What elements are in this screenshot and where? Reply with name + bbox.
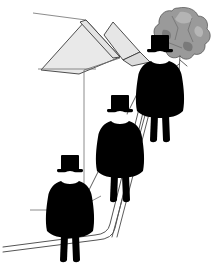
- figure-far-leg-right: [162, 115, 170, 142]
- illusion-illustration: Ponzo size constancy illusion Three iden…: [0, 0, 219, 264]
- figure-middle-face: [112, 111, 128, 125]
- figure-far-leg-left: [150, 115, 158, 142]
- figure-middle-hat-crown: [111, 95, 129, 110]
- figure-middle-coat: [96, 121, 144, 178]
- figure-far-coat: [136, 61, 184, 118]
- figure-near-leg-left: [60, 235, 68, 262]
- figure-middle-leg-right: [122, 175, 130, 202]
- figure-far-face: [152, 51, 168, 65]
- figure-middle-leg-left: [110, 175, 118, 202]
- ponzo-illusion-scene: Ponzo size constancy illusion Three iden…: [0, 0, 219, 264]
- figure-far-hat-crown: [151, 35, 169, 50]
- figure-near-face: [62, 171, 78, 185]
- figure-near-coat: [46, 181, 94, 238]
- figure-near-hat-crown: [61, 155, 79, 170]
- figure-near-leg-right: [72, 235, 80, 262]
